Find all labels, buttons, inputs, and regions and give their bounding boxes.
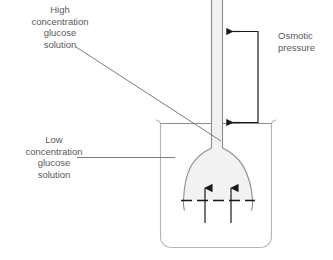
label-low-concentration: Low concentration glucose solution [2,134,106,180]
label-osmotic-pressure: Osmotic pressure [278,30,332,53]
osmosis-diagram: High concentration glucose solution Low … [0,0,333,260]
label-high-concentration: High concentration glucose solution [8,4,112,50]
pressure-bracket-path [228,32,258,123]
funnel-bulb [184,0,253,200]
leader-line-high-concentration [76,47,221,141]
osmotic-pressure-bracket [227,32,258,123]
glucose-solution-body [184,0,253,200]
